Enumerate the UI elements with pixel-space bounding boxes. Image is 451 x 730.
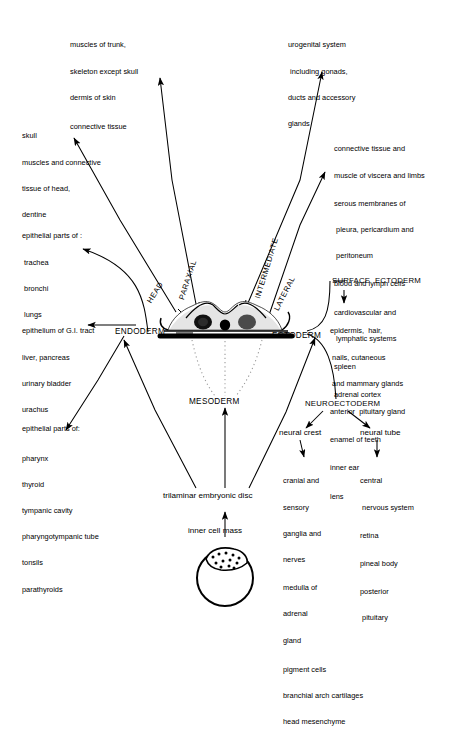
- somite-right: [238, 315, 256, 330]
- list-line: pineal body: [360, 560, 414, 569]
- list-line: pleura, pericardium and: [334, 226, 425, 235]
- dotted-projection-group: [192, 340, 262, 396]
- list-line: pigment cells: [283, 666, 363, 675]
- inner-cell-mass-blob: [206, 548, 247, 570]
- label-neural-crest: neural crest: [279, 428, 321, 438]
- list-line: anterior pituitary gland: [330, 408, 405, 417]
- list-line: cranial and: [283, 477, 363, 486]
- blastocyst-drawing: [197, 548, 253, 606]
- label-endoderm: ENDODERM: [115, 327, 165, 337]
- list-line: peritoneum: [334, 252, 425, 261]
- list-line: enamel of teeth: [330, 436, 405, 445]
- list-line: medulla of: [283, 584, 363, 593]
- list-line: urogenital system: [288, 41, 355, 50]
- list-line: nerves: [283, 556, 363, 565]
- list-line: including gonads,: [288, 68, 355, 77]
- list-line: pituitary: [360, 614, 414, 623]
- label-surface-ectoderm: SURFACE ECTODERM: [332, 276, 421, 285]
- list-line: muscle of viscera and limbs: [334, 172, 425, 181]
- list-line: nails, cutaneous: [330, 354, 405, 363]
- list-neural-crest: cranial and sensory ganglia and nerves m…: [283, 460, 363, 730]
- list-line: posterior: [360, 588, 414, 597]
- label-inner-cell-mass: inner cell mass: [188, 526, 242, 536]
- list-line: skull: [22, 132, 101, 141]
- list-line: and mammary glands: [330, 380, 405, 389]
- list-line: parathyroids: [22, 586, 99, 595]
- list-line: tissue of head,: [22, 185, 101, 194]
- lateral-tail-right: [282, 312, 290, 330]
- arrow-disc-to-endoderm: [124, 340, 196, 488]
- list-line: muscles and connective: [22, 159, 101, 168]
- list-line: thyroid: [22, 481, 99, 490]
- somite-left-core: [198, 318, 208, 326]
- label-trilaminar-disc: trilaminar embryonic disc: [163, 491, 253, 501]
- list-line: nervous system: [360, 504, 414, 513]
- list-line: liver, pancreas: [22, 354, 94, 363]
- list-line: trachea: [22, 259, 82, 268]
- list-line: dermis of skin: [70, 94, 138, 103]
- list-pharyngeal-endoderm: epithelial parts of: pharynx thyroid tym…: [22, 408, 99, 612]
- label-neuroectoderm: NEUROECTODERM: [305, 399, 380, 408]
- list-line: adrenal: [283, 610, 363, 619]
- list-line: bronchi: [22, 285, 82, 294]
- list-line: epithelium of G.I. tract: [22, 327, 94, 336]
- list-line: epithelial parts of :: [22, 232, 82, 241]
- label-ectoderm: ECTODERM: [272, 331, 321, 341]
- notochord: [220, 319, 230, 330]
- list-line: tonsils: [22, 559, 99, 568]
- list-line: serous membranes of: [334, 200, 425, 209]
- list-line: tympanic cavity: [22, 507, 99, 516]
- list-line: pharynx: [22, 455, 99, 464]
- arrow-crest-to-derivatives: [300, 440, 304, 457]
- curve-ectoderm-to-surface: [307, 281, 330, 331]
- list-neural-tube: central nervous system retina pineal bod…: [360, 460, 414, 641]
- list-line: connective tissue and: [334, 145, 425, 154]
- label-mesoderm: MESODERM: [189, 397, 240, 407]
- list-line: retina: [360, 532, 414, 541]
- list-line: urinary bladder: [22, 380, 94, 389]
- list-line: gland: [283, 637, 363, 646]
- list-line: pharyngotympanic tube: [22, 533, 99, 542]
- dotted-right: [236, 340, 262, 396]
- list-line: skeleton except skull: [70, 68, 138, 77]
- arrow-neuroectoderm-to-crest: [306, 411, 323, 428]
- dotted-left: [192, 340, 215, 396]
- list-line: epidermis, hair,: [330, 327, 405, 336]
- list-line: ducts and accessory: [288, 94, 355, 103]
- label-neural-tube: neural tube: [360, 428, 401, 438]
- list-line: branchial arch cartilages: [283, 692, 363, 701]
- list-line: ganglia and: [283, 530, 363, 539]
- list-line: head mesenchyme: [283, 718, 363, 727]
- list-line: muscles of trunk,: [70, 41, 138, 50]
- list-line: central: [360, 477, 414, 486]
- list-line: epithelial parts of:: [22, 425, 99, 434]
- list-line: sensory: [283, 504, 363, 513]
